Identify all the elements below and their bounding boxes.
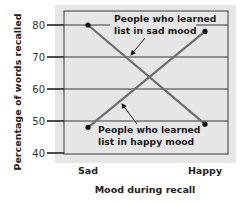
annotation-happy-mood-line1: People who learned [98,124,200,135]
annotation-happy-mood-line2: list in happy mood [98,136,194,147]
data-point-1-sad [85,125,90,130]
x-tick-label-happy: Happy [188,165,223,176]
data-point-0-happy [202,122,207,127]
annotation-sad-mood-line1: People who learned [114,13,216,24]
x-axis-label: Mood during recall [95,184,196,195]
data-point-1-happy [202,29,207,34]
y-tick-label: 40 [32,148,45,159]
y-tick-label: 80 [32,20,45,31]
y-tick-label: 70 [32,52,45,63]
y-tick-label: 50 [32,116,45,127]
line-chart: 4050607080 People who learnedlist in sad… [0,0,240,202]
data-point-0-sad [85,22,90,27]
x-tick-label-sad: Sad [78,165,98,176]
y-tick-label: 60 [32,84,45,95]
annotation-sad-mood-line2: list in sad mood [114,25,196,36]
y-axis-label: Percentage of words recalled [12,13,23,170]
